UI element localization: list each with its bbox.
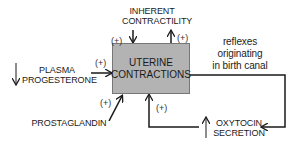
reflexes-line2: originating <box>203 48 277 60</box>
plasma-line2: PROGESTERONE <box>22 75 92 85</box>
inherent-line1: INHERENT <box>122 6 182 16</box>
reflexes-line3: in birth canal <box>203 60 277 72</box>
inherent-contractility-label: INHERENT CONTRACTILITY <box>122 6 182 26</box>
reflexes-line1: reflexes <box>203 36 277 48</box>
oxytocin-line1: OXYTOCIN <box>212 118 266 128</box>
prostaglandin-label: PROSTAGLANDIN <box>28 118 110 128</box>
inherent-line2: CONTRACTILITY <box>122 16 182 26</box>
center-label-line1: UTERINE <box>129 57 173 69</box>
reflexes-label: reflexes originating in birth canal <box>203 36 277 72</box>
inherent-in-sign: (+) <box>111 36 122 46</box>
uterine-contractions-box: UTERINE CONTRACTIONS <box>112 43 190 94</box>
center-label-line2: CONTRACTIONS <box>111 69 191 81</box>
prostaglandin-sign: (+) <box>100 98 111 108</box>
plasma-progesterone-label: PLASMA PROGESTERONE <box>22 65 92 85</box>
inherent-out-sign: (+) <box>177 33 188 43</box>
plasma-line1: PLASMA <box>22 65 92 75</box>
plasma-sign: (+) <box>95 58 106 68</box>
oxytocin-line2: SECRETION <box>212 128 266 138</box>
oxytocin-secretion-label: OXYTOCIN SECRETION <box>212 118 266 138</box>
oxytocin-sign: (+) <box>156 103 167 113</box>
